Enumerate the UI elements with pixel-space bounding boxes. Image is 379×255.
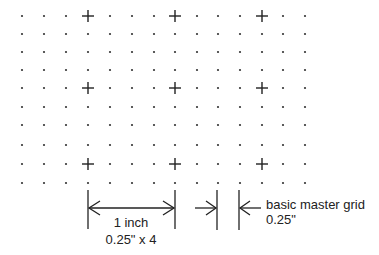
grid-dot: [131, 124, 133, 126]
grid-dot: [65, 124, 67, 126]
grid-dot: [65, 163, 67, 165]
grid-dot: [261, 51, 263, 53]
grid-dot: [109, 124, 111, 126]
grid-dot: [65, 182, 67, 184]
grid-dot: [43, 87, 45, 89]
grid-dot: [43, 163, 45, 165]
grid-dot: [131, 33, 133, 35]
grid-dot: [21, 33, 23, 35]
grid-dot: [282, 33, 284, 35]
one-inch-label: 1 inch: [96, 215, 166, 230]
master-grid-label: basic master grid: [266, 197, 365, 212]
grid-dot: [21, 163, 23, 165]
grid-dot: [109, 51, 111, 53]
grid-dot: [87, 124, 89, 126]
grid-dot: [239, 51, 241, 53]
grid-dot: [153, 69, 155, 71]
grid-dot: [21, 69, 23, 71]
grid-dot: [21, 87, 23, 89]
plus-marker-icon: [82, 10, 94, 22]
grid-dot: [153, 87, 155, 89]
grid-dot: [282, 15, 284, 17]
grid-dot: [261, 33, 263, 35]
grid-dot: [21, 15, 23, 17]
grid-dot: [87, 106, 89, 108]
grid-dot: [217, 144, 219, 146]
grid-dot: [43, 182, 45, 184]
grid-dot: [153, 163, 155, 165]
grid-dot: [153, 124, 155, 126]
grid-dot: [239, 106, 241, 108]
grid-dot: [65, 69, 67, 71]
grid-dot: [87, 182, 89, 184]
grid-dot: [21, 124, 23, 126]
grid-dot: [217, 106, 219, 108]
grid-dot: [304, 106, 306, 108]
plus-marker-icon: [169, 10, 181, 22]
grid-dot: [282, 51, 284, 53]
grid-dot: [153, 106, 155, 108]
grid-dot: [196, 51, 198, 53]
grid-dot: [282, 144, 284, 146]
plus-marker-icon: [169, 158, 181, 170]
grid-dot: [65, 51, 67, 53]
grid-dot: [109, 15, 111, 17]
grid-dot: [174, 33, 176, 35]
grid-dot: [87, 51, 89, 53]
grid-dot: [304, 124, 306, 126]
grid-dot: [174, 51, 176, 53]
grid-dot: [217, 87, 219, 89]
grid-dot: [304, 51, 306, 53]
grid-dot: [282, 182, 284, 184]
grid-dot: [196, 144, 198, 146]
plus-marker-icon: [256, 82, 268, 94]
grid-dot: [261, 182, 263, 184]
grid-dot: [196, 69, 198, 71]
grid-dot: [239, 182, 241, 184]
grid-dot: [109, 33, 111, 35]
grid-dot: [21, 182, 23, 184]
dot-grid: [21, 10, 306, 184]
grid-dot: [304, 33, 306, 35]
grid-dot: [304, 144, 306, 146]
master-grid-sublabel: 0.25": [266, 212, 296, 227]
grid-dot: [282, 163, 284, 165]
grid-dot: [43, 33, 45, 35]
grid-dot: [43, 106, 45, 108]
grid-dot: [282, 69, 284, 71]
grid-dot: [304, 182, 306, 184]
grid-dot: [65, 15, 67, 17]
grid-dot: [261, 144, 263, 146]
grid-dot: [131, 51, 133, 53]
grid-dot: [217, 51, 219, 53]
grid-dot: [239, 69, 241, 71]
plus-marker-icon: [169, 82, 181, 94]
grid-dot: [196, 163, 198, 165]
grid-dot: [282, 87, 284, 89]
grid-dot: [87, 33, 89, 35]
grid-dot: [109, 106, 111, 108]
grid-diagram: [0, 0, 379, 255]
plus-marker-icon: [82, 158, 94, 170]
grid-dot: [109, 87, 111, 89]
grid-dot: [131, 182, 133, 184]
grid-dot: [65, 106, 67, 108]
grid-dot: [196, 15, 198, 17]
grid-dot: [65, 144, 67, 146]
grid-dot: [43, 51, 45, 53]
grid-dot: [153, 33, 155, 35]
grid-dot: [87, 69, 89, 71]
grid-dot: [174, 69, 176, 71]
grid-dot: [196, 106, 198, 108]
grid-dot: [217, 163, 219, 165]
grid-dot: [217, 69, 219, 71]
grid-dot: [261, 124, 263, 126]
grid-dot: [131, 87, 133, 89]
grid-dot: [153, 144, 155, 146]
grid-dot: [109, 69, 111, 71]
grid-dot: [239, 15, 241, 17]
grid-dot: [109, 163, 111, 165]
grid-dot: [282, 106, 284, 108]
grid-dot: [239, 87, 241, 89]
grid-dot: [131, 144, 133, 146]
